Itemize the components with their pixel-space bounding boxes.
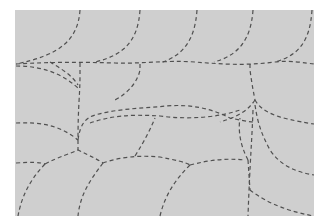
pattern-panel: [15, 10, 314, 216]
pattern-canvas: [0, 0, 327, 220]
